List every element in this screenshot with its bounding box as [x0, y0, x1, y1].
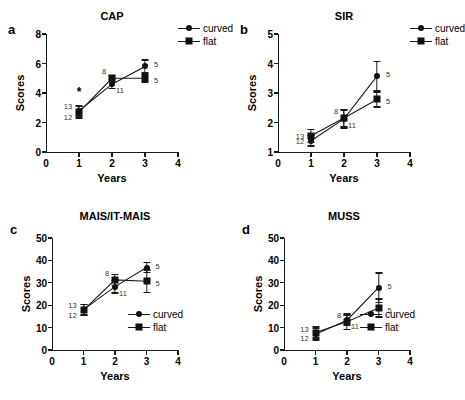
- error-bar-cap: [80, 304, 87, 305]
- legend-label: curved: [385, 309, 415, 320]
- legend-symbol-circle-icon: [178, 22, 200, 35]
- legend-symbol-square-icon: [178, 35, 200, 48]
- sample-size-label: 13: [64, 101, 72, 110]
- data-point-flat: [374, 96, 381, 103]
- error-bar-cap: [341, 109, 348, 110]
- error-bar-cap: [312, 337, 319, 338]
- data-point-flat: [341, 115, 348, 122]
- sample-size-label: 11: [351, 322, 359, 331]
- legend-item-curved: curved: [410, 22, 465, 35]
- sample-size-label: 5: [155, 261, 159, 270]
- data-point-curved: [376, 285, 382, 291]
- legend: curvedflat: [360, 308, 415, 334]
- data-point-flat: [308, 132, 315, 139]
- sample-size-label: 12: [68, 311, 76, 320]
- legend-symbol-square-icon: [360, 321, 382, 334]
- legend: curvedflat: [410, 22, 465, 48]
- error-bar-cap: [308, 145, 315, 146]
- panel-a: aCAP0246801234ScoresYears131151285*curve…: [0, 0, 232, 200]
- data-point-curved: [142, 63, 148, 69]
- series-lines: [0, 200, 232, 400]
- data-point-flat: [112, 276, 119, 283]
- error-bar-cap: [375, 298, 382, 299]
- legend-item-flat: flat: [128, 321, 183, 334]
- data-point-flat: [109, 75, 116, 82]
- sample-size-label: 8: [334, 107, 338, 116]
- error-bar-cap: [109, 88, 116, 89]
- data-point-curved: [109, 81, 115, 87]
- error-bar-cap: [374, 61, 381, 62]
- legend-label: curved: [435, 23, 465, 34]
- legend-symbol-circle-icon: [128, 308, 150, 321]
- sample-size-label: 8: [102, 67, 106, 76]
- error-bar-cap: [112, 285, 119, 286]
- sample-size-label: 12: [64, 113, 72, 122]
- error-bar-cap: [143, 292, 150, 293]
- data-point-flat: [344, 318, 351, 325]
- legend-item-flat: flat: [410, 35, 465, 48]
- error-bar-cap: [375, 272, 382, 273]
- legend-item-flat: flat: [360, 321, 415, 334]
- legend-label: flat: [203, 36, 216, 47]
- legend-symbol-circle-icon: [360, 308, 382, 321]
- error-bar-cap: [76, 106, 83, 107]
- sample-size-label: 8: [337, 310, 341, 319]
- legend-item-flat: flat: [178, 35, 233, 48]
- panel-d: dMUSS0102030405001234ScoresYears13115128…: [232, 200, 464, 400]
- data-point-curved: [374, 73, 380, 79]
- sample-size-label: 5: [386, 97, 390, 106]
- sample-size-label: 11: [116, 86, 124, 95]
- data-point-flat: [312, 329, 319, 336]
- legend: curvedflat: [128, 308, 183, 334]
- error-bar-cap: [312, 339, 319, 340]
- legend-item-curved: curved: [360, 308, 415, 321]
- series-lines: [232, 200, 464, 400]
- sample-size-label: 12: [296, 136, 304, 145]
- legend-symbol-circle-icon: [410, 22, 432, 35]
- error-bar-cap: [112, 274, 119, 275]
- error-bar-cap: [112, 292, 119, 293]
- significance-marker: *: [77, 86, 82, 98]
- sample-size-label: 11: [348, 120, 356, 129]
- sample-size-label: 5: [386, 70, 390, 79]
- error-bar-cap: [142, 59, 149, 60]
- error-bar-cap: [308, 142, 315, 143]
- legend-label: flat: [435, 36, 448, 47]
- sample-size-label: 5: [387, 281, 391, 290]
- sample-size-label: 5: [154, 60, 158, 69]
- error-bar-cap: [374, 91, 381, 92]
- error-bar-cap: [80, 315, 87, 316]
- error-bar-cap: [308, 129, 315, 130]
- error-bar-cap: [312, 326, 319, 327]
- legend-label: curved: [153, 309, 183, 320]
- legend-symbol-square-icon: [128, 321, 150, 334]
- error-bar-cap: [344, 313, 351, 314]
- error-bar-cap: [143, 262, 150, 263]
- data-point-flat: [80, 307, 87, 314]
- error-bar-cap: [374, 106, 381, 107]
- data-point-flat: [142, 75, 149, 82]
- legend-label: curved: [203, 23, 233, 34]
- legend-label: flat: [153, 322, 166, 333]
- sample-size-label: 5: [154, 76, 158, 85]
- legend-label: flat: [385, 322, 398, 333]
- error-bar-cap: [76, 117, 83, 118]
- error-bar-cap: [341, 126, 348, 127]
- legend-item-curved: curved: [128, 308, 183, 321]
- legend: curvedflat: [178, 22, 233, 48]
- error-bar-cap: [344, 329, 351, 330]
- error-bar-cap: [143, 269, 150, 270]
- data-point-flat: [76, 109, 83, 116]
- sample-size-label: 11: [119, 288, 127, 297]
- sample-size-label: 5: [155, 279, 159, 288]
- sample-size-label: 8: [105, 268, 109, 277]
- panel-b: bSIR1234501234ScoresYears131151285curved…: [232, 0, 464, 200]
- legend-symbol-square-icon: [410, 35, 432, 48]
- data-point-flat: [143, 278, 150, 285]
- legend-item-curved: curved: [178, 22, 233, 35]
- sample-size-label: 13: [68, 300, 76, 309]
- sample-size-label: 12: [300, 333, 308, 342]
- panel-c: cMAIS/IT-MAIS0102030405001234ScoresYears…: [0, 200, 232, 400]
